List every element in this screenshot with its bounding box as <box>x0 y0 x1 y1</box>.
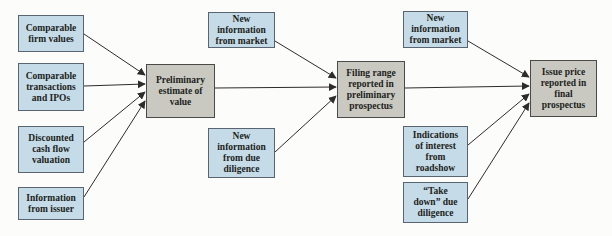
node-indications-of-interest-roadshow: Indications of interest from roadshow <box>403 126 468 177</box>
connector-preliminary-to-filing <box>215 87 336 88</box>
node-information-from-issuer: Information from issuer <box>18 187 84 220</box>
node-new-information-from-market-2: New information from market <box>403 11 468 48</box>
connector-transactions-to-preliminary <box>84 84 145 86</box>
node-take-down-due-diligence: “Take down” due diligence <box>403 182 468 223</box>
node-comparable-transactions-ipos: Comparable transactions and IPOs <box>18 63 84 111</box>
connector-layer <box>0 0 612 236</box>
ipo-pricing-flow-diagram: Comparable firm values Comparable transa… <box>0 0 612 236</box>
connector-filing-to-issueprice <box>405 86 529 88</box>
connector-market1-to-filing <box>275 41 336 78</box>
node-new-information-from-market-1: New information from market <box>208 12 275 48</box>
connector-market2-to-issueprice <box>468 41 529 77</box>
connector-indications-to-issueprice <box>468 94 529 145</box>
connector-firm-values-to-preliminary <box>84 34 145 75</box>
node-filing-range-preliminary-prospectus: Filing range reported in preliminary pro… <box>337 61 405 118</box>
node-discounted-cash-flow: Discounted cash flow valuation <box>18 126 84 173</box>
node-comparable-firm-values: Comparable firm values <box>18 15 84 52</box>
connector-takedown-to-issueprice <box>468 103 529 199</box>
node-issue-price-final-prospectus: Issue price reported in final prospectus <box>530 60 597 117</box>
connector-duediligence-to-filing <box>275 96 336 152</box>
node-preliminary-estimate-of-value: Preliminary estimate of value <box>146 64 215 118</box>
connector-dcf-to-preliminary <box>84 92 145 142</box>
node-new-information-from-due-diligence: New information from due diligence <box>208 128 275 178</box>
connector-issuer-to-preliminary <box>84 101 145 197</box>
